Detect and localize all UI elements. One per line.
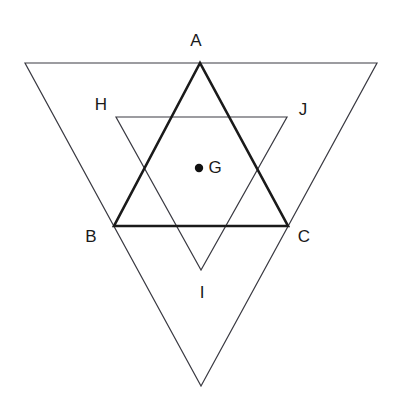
- vertex-label-a: A: [190, 31, 202, 50]
- vertex-label-h: H: [95, 95, 107, 114]
- triangle-hij: [116, 117, 287, 270]
- vertex-label-c: C: [298, 227, 310, 246]
- point-g-marker: [195, 164, 203, 172]
- vertex-label-j: J: [299, 100, 308, 119]
- vertex-label-i: I: [200, 283, 205, 302]
- geometry-figure: A B C G H I J: [0, 0, 397, 413]
- triangle-abc: [114, 63, 288, 226]
- vertex-label-b: B: [85, 227, 96, 246]
- outer-inverted-triangle: [25, 63, 377, 386]
- geometry-canvas: A B C G H I J: [0, 0, 397, 413]
- point-label-g: G: [208, 158, 221, 177]
